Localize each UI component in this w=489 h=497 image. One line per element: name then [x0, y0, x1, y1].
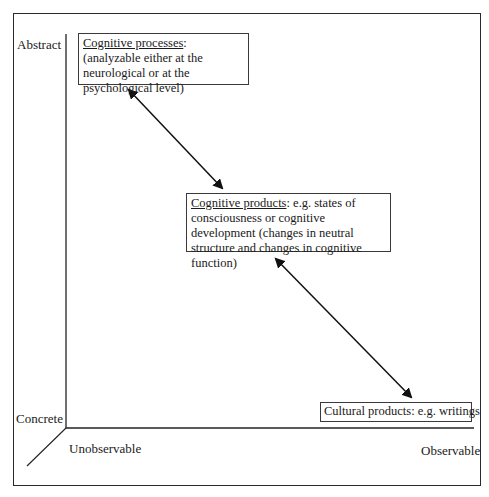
z-axis: [27, 428, 66, 466]
box-title: Cognitive processes: [83, 36, 183, 50]
arrow-products-cultural: [276, 259, 411, 397]
box-cultural-products: Cultural products: e.g. writings: [320, 402, 472, 422]
y-axis-bottom-label: Concrete: [16, 411, 63, 426]
box-cognitive-products: Cognitive products: e.g. states of consc…: [186, 193, 391, 252]
box-text: Cultural products: e.g. writings: [324, 404, 480, 418]
x-axis-right-label: Observable: [421, 443, 480, 458]
y-axis-top-label: Abstract: [17, 37, 61, 52]
box-cognitive-processes: Cognitive processes: (analyzable either …: [78, 33, 249, 85]
box-title: Cognitive products: [191, 196, 286, 210]
arrow-processes-products: [129, 90, 222, 188]
x-axis-left-label: Unobservable: [69, 441, 141, 456]
